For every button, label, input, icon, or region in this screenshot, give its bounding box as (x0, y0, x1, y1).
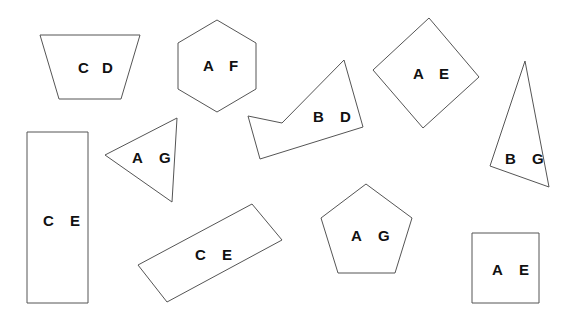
shape-square: AE (472, 233, 539, 303)
shape-label: E (222, 246, 232, 263)
shape-label: G (378, 227, 390, 244)
shape-pentagon: AG (321, 184, 412, 273)
shape-label: A (351, 227, 362, 244)
shape-label: D (340, 108, 351, 125)
shape-irregular-pentagon: BD (248, 60, 363, 159)
shape-label: C (78, 59, 89, 76)
shape-label: A (492, 261, 503, 278)
slanted-rectangle-outline (138, 204, 282, 302)
shape-label: C (195, 246, 206, 263)
shape-label: E (519, 261, 529, 278)
tall-triangle-outline (490, 61, 549, 187)
shape-tall-rectangle: CE (27, 132, 88, 303)
shape-label: B (313, 108, 324, 125)
hexagon-outline (178, 20, 256, 112)
shape-label: A (413, 65, 424, 82)
shape-label: A (203, 57, 214, 74)
shape-label: B (505, 150, 516, 167)
shape-tall-triangle: BG (490, 61, 549, 187)
shape-label: D (102, 59, 113, 76)
shape-trapezoid: CD (40, 35, 140, 99)
shape-label: G (159, 149, 171, 166)
shape-label: E (439, 65, 449, 82)
shape-label: F (229, 57, 238, 74)
diamond-outline (373, 18, 479, 128)
shape-hexagon: AF (178, 20, 256, 112)
shape-label: A (132, 149, 143, 166)
shape-label: G (532, 150, 544, 167)
shape-label: E (70, 212, 80, 229)
pentagon-outline (321, 184, 412, 273)
shape-slanted-rectangle: CE (138, 204, 282, 302)
trapezoid-outline (40, 35, 140, 99)
shape-triangle: AG (105, 118, 177, 202)
shape-label: C (43, 212, 54, 229)
shape-diamond: AE (373, 18, 479, 128)
shapes-canvas: CDAFBDAEBGCEAGCEAGAE (0, 0, 575, 318)
